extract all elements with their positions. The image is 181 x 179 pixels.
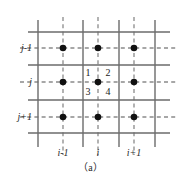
grid-diagram: j-1 j j+1 i-1 i i+1 1 2 3 4 (0, 0, 181, 179)
figure-caption: （a） (0, 163, 181, 173)
quadrant-label-3: 3 (86, 87, 91, 97)
grid-svg (0, 0, 181, 179)
grid-node (95, 114, 102, 121)
row-label-j-minus-1: j-1 (6, 43, 32, 53)
grid-node (131, 114, 138, 121)
grid-node (60, 114, 67, 121)
grid-node (131, 45, 138, 52)
grid-node (131, 79, 138, 86)
grid-node (60, 45, 67, 52)
figure-container: j-1 j j+1 i-1 i i+1 1 2 3 4 （a） (0, 0, 181, 179)
grid-node (60, 79, 67, 86)
quadrant-label-2: 2 (106, 68, 111, 78)
grid-node (95, 45, 102, 52)
col-label-i-minus-1: i-1 (57, 148, 68, 158)
row-label-j: j (6, 77, 32, 87)
quadrant-label-1: 1 (86, 68, 91, 78)
row-label-j-plus-1: j+1 (6, 112, 32, 122)
col-label-i: i (97, 148, 100, 158)
quadrant-label-4: 4 (106, 87, 111, 97)
col-label-i-plus-1: i+1 (127, 148, 142, 158)
grid-node (95, 79, 102, 86)
